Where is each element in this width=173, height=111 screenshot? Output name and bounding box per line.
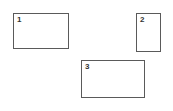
box-1-label: 1 bbox=[17, 16, 21, 24]
box-3-label: 3 bbox=[85, 63, 89, 71]
box-2-label: 2 bbox=[140, 16, 144, 24]
box-3: 3 bbox=[81, 60, 145, 98]
box-2: 2 bbox=[136, 13, 161, 52]
box-1: 1 bbox=[13, 13, 69, 49]
